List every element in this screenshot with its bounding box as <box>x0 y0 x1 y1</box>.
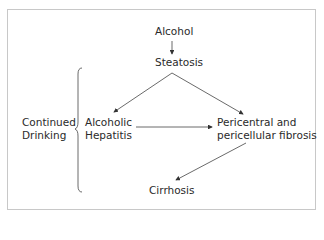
node-fibrosis-line2: pericellular fibrosis <box>217 129 317 142</box>
node-steatosis: Steatosis <box>155 56 203 69</box>
side-label-line1: Continued <box>22 116 76 129</box>
arrow-fibrosis-cirrhosis <box>176 143 246 180</box>
side-label-line2: Drinking <box>22 129 66 142</box>
node-cirrhosis: Cirrhosis <box>149 184 194 197</box>
node-fibrosis-line1: Pericentral and <box>217 116 296 129</box>
arrow-steatosis-hepatitis <box>114 73 172 112</box>
node-hepatitis-line2: Hepatitis <box>85 129 132 142</box>
brace-icon <box>75 68 82 192</box>
node-alcohol: Alcohol <box>155 25 193 38</box>
node-hepatitis-line1: Alcoholic <box>85 116 132 129</box>
arrow-steatosis-fibrosis <box>172 73 243 114</box>
